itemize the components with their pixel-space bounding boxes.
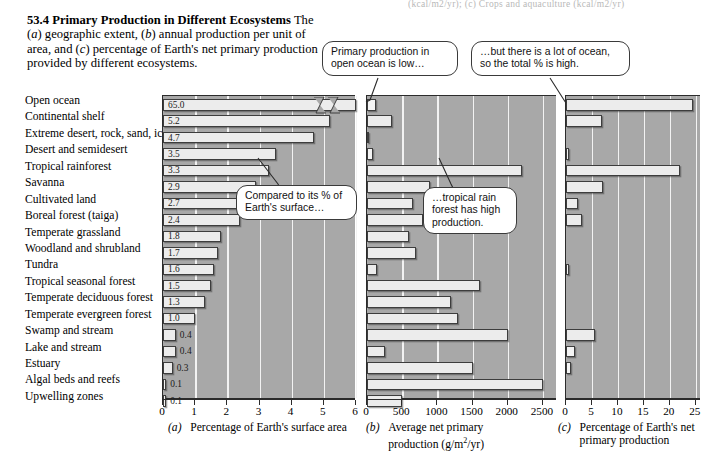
bar bbox=[163, 379, 166, 391]
bar bbox=[566, 329, 595, 341]
axis-tick bbox=[194, 400, 195, 405]
axis-tick bbox=[436, 400, 437, 405]
callout-lot-of-ocean: …but there is a lot of ocean, so the tot… bbox=[471, 41, 630, 76]
axis-tick bbox=[323, 400, 324, 405]
axis-tick bbox=[617, 400, 618, 405]
leader-line-tropical-rain-high bbox=[437, 158, 463, 190]
panel-caption-a-text: Percentage of Earth's surface area bbox=[190, 421, 347, 434]
bar bbox=[367, 115, 392, 127]
axis-tick-label: 1000 bbox=[425, 405, 447, 417]
panel-caption-c: (c) Percentage of Earth's net primary pr… bbox=[558, 421, 704, 447]
panel-label-c: (c) bbox=[558, 421, 571, 434]
bar bbox=[367, 362, 473, 374]
bar-value-label: 1.3 bbox=[168, 297, 180, 308]
bar bbox=[367, 264, 377, 276]
bar bbox=[566, 115, 602, 127]
x-axis-a: 0123456 bbox=[162, 399, 355, 400]
axis-tick bbox=[259, 400, 260, 405]
ecosystem-label: Extreme desert, rock, sand, ice bbox=[25, 126, 161, 142]
axis-tick-label: 5 bbox=[320, 405, 326, 417]
axis-tick bbox=[355, 400, 356, 405]
axis-tick-label: 2 bbox=[224, 405, 230, 417]
axis-tick-label: 1 bbox=[191, 405, 197, 417]
bar bbox=[566, 148, 569, 160]
chart-panel-c bbox=[565, 95, 700, 399]
panel-caption-b-line2-pre: production (g/m bbox=[388, 438, 463, 451]
callout-compared-surface: Compared to its % of Earth's surface… bbox=[236, 185, 357, 220]
ecosystem-label: Cultivated land bbox=[25, 192, 161, 208]
axis-tick bbox=[591, 400, 592, 405]
bar bbox=[163, 346, 176, 358]
x-axis-b: 05001000150020002500 bbox=[366, 399, 556, 400]
bar-value-label: 2.7 bbox=[168, 198, 180, 209]
x-axis-c: 0510152025 bbox=[565, 399, 700, 400]
caption-text-2: ) geographic extent, ( bbox=[38, 27, 146, 41]
gridline bbox=[543, 96, 544, 398]
bar bbox=[367, 379, 543, 391]
axis-tick-label: 0 bbox=[562, 405, 568, 417]
panel-label-a: (a) bbox=[168, 421, 182, 434]
bar-value-label: 0.1 bbox=[170, 396, 182, 407]
bar bbox=[163, 362, 173, 374]
ecosystem-label: Tropical rainforest bbox=[25, 159, 161, 175]
ecosystem-label: Woodland and shrubland bbox=[25, 241, 161, 257]
bar bbox=[367, 132, 369, 144]
ecosystem-label: Temperate deciduous forest bbox=[25, 290, 161, 306]
bar bbox=[367, 313, 458, 325]
bar-value-label: 1.7 bbox=[168, 248, 180, 259]
bar bbox=[367, 181, 430, 193]
gridline bbox=[618, 96, 619, 398]
callout-tropical-rain-high: …tropical rain forest has high productio… bbox=[423, 187, 517, 234]
bar-value-label: 0.1 bbox=[170, 379, 182, 390]
bar bbox=[163, 115, 330, 127]
bar-value-label: 1.6 bbox=[168, 264, 180, 275]
axis-tick-label: 20 bbox=[663, 405, 674, 417]
plot-area-a: 65.05.24.73.53.32.92.72.41.81.71.61.51.3… bbox=[163, 96, 355, 398]
bar bbox=[367, 329, 508, 341]
bar bbox=[367, 231, 409, 243]
ecosystem-label: Upwelling zones bbox=[25, 389, 161, 405]
bar bbox=[566, 181, 603, 193]
gridline bbox=[592, 96, 593, 398]
axis-tick bbox=[669, 400, 670, 405]
leader-line-lot-of-ocean bbox=[534, 78, 580, 106]
panel-caption-c-line2: primary production bbox=[580, 434, 670, 447]
axis-tick bbox=[643, 400, 644, 405]
axis-tick bbox=[291, 400, 292, 405]
panel-caption-a: (a) Percentage of Earth's surface area bbox=[168, 421, 363, 434]
bar-value-label: 0.4 bbox=[180, 346, 192, 357]
bar bbox=[566, 198, 578, 210]
axis-break-icon bbox=[314, 97, 348, 114]
gridline bbox=[473, 96, 474, 398]
axis-tick bbox=[226, 400, 227, 405]
leader-line-open-ocean-low bbox=[360, 78, 396, 104]
bar-value-label: 2.4 bbox=[168, 215, 180, 226]
figure-title: Primary Production in Different Ecosyste… bbox=[52, 13, 291, 27]
figure-caption: 53.4 Primary Production in Different Eco… bbox=[27, 13, 327, 71]
cropped-top-text: (kcal/m2/yr); (c) Crops and aquaculture … bbox=[408, 0, 704, 9]
axis-tick-label: 500 bbox=[393, 405, 410, 417]
bar-value-label: 2.9 bbox=[168, 182, 180, 193]
bar-value-label: 0.3 bbox=[177, 363, 189, 374]
panel-caption-c-line1: Percentage of Earth's net bbox=[580, 421, 695, 434]
panel-caption-b-line1: Average net primary bbox=[388, 421, 483, 434]
bar bbox=[367, 148, 373, 160]
bar bbox=[566, 264, 569, 276]
axis-tick-label: 0 bbox=[159, 405, 165, 417]
axis-tick-label: 6 bbox=[352, 405, 358, 417]
axis-tick-label: 1500 bbox=[460, 405, 482, 417]
bar-value-label: 3.5 bbox=[168, 149, 180, 160]
figure-root: (kcal/m2/yr); (c) Crops and aquaculture … bbox=[0, 0, 704, 460]
axis-tick bbox=[401, 400, 402, 405]
bar-value-label: 0.4 bbox=[180, 330, 192, 341]
axis-tick-label: 2500 bbox=[531, 405, 553, 417]
bar bbox=[566, 362, 571, 374]
axis-tick-label: 25 bbox=[689, 405, 700, 417]
axis-tick bbox=[542, 400, 543, 405]
gridline bbox=[508, 96, 509, 398]
ecosystem-label: Savanna bbox=[25, 175, 161, 191]
ecosystem-label-list: Open ocean Continental shelf Extreme des… bbox=[25, 93, 161, 405]
ecosystem-label: Desert and semidesert bbox=[25, 142, 161, 158]
panel-caption-b: (b) Average net primary production (g/m2… bbox=[366, 421, 556, 451]
axis-tick-label: 2000 bbox=[496, 405, 518, 417]
